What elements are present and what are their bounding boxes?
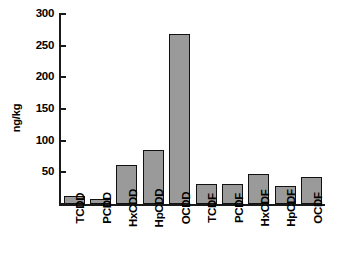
x-axis-tick-label-pcdf: PCDF (233, 193, 246, 223)
x-axis-tick-label-hpcdd: HpCDD (153, 189, 166, 228)
bar-slot (272, 14, 298, 204)
x-axis-tick-label-tcdf: TCDF (206, 193, 219, 222)
y-axis-tick-mark (59, 13, 66, 15)
bars-layer (61, 14, 325, 204)
y-axis-tick-label: 100 (24, 135, 54, 147)
y-axis-tick-label: 250 (24, 40, 54, 52)
x-axis-tick-labels: TCDDPCDDHxCDDHpCDDOCDDTCDFPCDFHxCDFHpCDF… (61, 208, 325, 270)
bar-slot (220, 14, 246, 204)
x-tick-slot: HpCDD (140, 208, 166, 270)
y-axis-tick-mark (59, 171, 66, 173)
y-axis-tick-label: 50 (24, 166, 54, 178)
bar-slot (114, 14, 140, 204)
x-axis-tick-label-ocdd: OCDD (180, 192, 193, 225)
bar-slot (88, 14, 114, 204)
x-axis-tick-label-pcdd: PCDD (101, 192, 114, 223)
x-axis-tick-label-hxcdd: HxCDD (127, 189, 140, 227)
y-axis-tick-mark (59, 45, 66, 47)
x-tick-slot: OCDF (299, 208, 325, 270)
y-axis-tick-label: 300 (24, 8, 54, 20)
bar-slot (193, 14, 219, 204)
plot-area (59, 14, 325, 204)
y-axis-tick-label: 150 (24, 103, 54, 115)
x-tick-slot: HxCDF (246, 208, 272, 270)
x-tick-slot: OCDD (167, 208, 193, 270)
x-axis-tick-label-hxcdf: HxCDF (259, 190, 272, 227)
x-tick-slot: TCDD (61, 208, 87, 270)
x-tick-slot: HxCDD (114, 208, 140, 270)
y-axis-tick-label: 200 (24, 71, 54, 83)
bar-slot (299, 14, 325, 204)
bar-slot (246, 14, 272, 204)
y-axis-tick-labels: 50100150200250300 (22, 0, 54, 271)
x-tick-slot: PCDD (88, 208, 114, 270)
bar-slot (167, 14, 193, 204)
x-axis-tick-label-tcdd: TCDD (74, 193, 87, 224)
bar-chart-figure: ng/kg 50100150200250300 TCDDPCDDHxCDDHpC… (0, 0, 340, 271)
y-axis-tick-mark (59, 76, 66, 78)
y-axis-tick-mark (59, 203, 66, 205)
y-axis-title-text: ng/kg (10, 92, 22, 144)
x-axis-tick-label-hpcdf: HpCDF (285, 189, 298, 226)
x-tick-slot: PCDF (220, 208, 246, 270)
x-tick-slot: TCDF (193, 208, 219, 270)
y-axis-tick-mark (59, 108, 66, 110)
x-tick-slot: HpCDF (272, 208, 298, 270)
bar-slot (140, 14, 166, 204)
bar-ocdd[interactable] (169, 34, 190, 204)
y-axis-tick-mark (59, 140, 66, 142)
x-axis-tick-label-ocdf: OCDF (312, 192, 325, 223)
